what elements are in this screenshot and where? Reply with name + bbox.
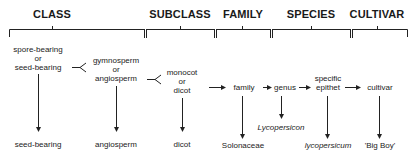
chain-cultivar: cultivar <box>367 83 392 92</box>
mono-choice-line1: monocot <box>167 68 198 77</box>
class-choice-line1: spore-bearing <box>13 45 62 54</box>
fork-icon-2 <box>147 75 161 84</box>
class-choice-line3: seed-bearing <box>13 63 62 72</box>
result-family: Solonaceae <box>222 141 264 150</box>
species-bracket <box>273 26 351 37</box>
header-cultivar: CULTIVAR <box>350 8 405 20</box>
family-bracket <box>217 26 271 37</box>
subclass-bracket <box>147 26 215 37</box>
mono-choice-line2: or <box>167 77 198 86</box>
mono-choice-line3: dicot <box>167 86 198 95</box>
gymno-choice-line1: gymnosperm <box>93 56 139 65</box>
chain-epithet-line2: epithet <box>315 83 342 92</box>
divider-4 <box>351 29 353 38</box>
diagram-lines <box>0 0 416 160</box>
class-choice: spore-bearing or seed-bearing <box>13 45 62 72</box>
divider-3 <box>271 29 273 38</box>
arrowhead-down-species <box>325 134 330 139</box>
monocot-choice: monocot or dicot <box>167 68 198 95</box>
class-choice-line2: or <box>13 54 62 63</box>
chain-epithet-line1: specific <box>315 74 342 83</box>
arrowhead-down-sub1 <box>114 127 119 132</box>
gymno-choice: gymnosperm or angiosperm <box>93 56 139 83</box>
header-species: SPECIES <box>287 8 335 20</box>
arrowhead-down-cultivar <box>377 134 382 139</box>
class-bracket <box>10 26 145 37</box>
header-class: CLASS <box>33 8 71 20</box>
arrowhead-down-class <box>36 127 41 132</box>
classification-diagram: CLASS SUBCLASS FAMILY SPECIES CULTIVAR s… <box>0 0 416 160</box>
result-genus: Lycopersicon <box>258 123 305 132</box>
arrowhead-family <box>221 85 226 90</box>
arrowhead-down-sub2 <box>180 127 185 132</box>
header-subclass: SUBCLASS <box>149 8 210 20</box>
result-species: lycopersicum <box>305 141 352 150</box>
result-seed-bearing: seed-bearing <box>15 140 62 149</box>
arrowhead-down-genus <box>279 114 284 119</box>
gymno-choice-line2: or <box>93 65 139 74</box>
divider-1 <box>145 29 147 38</box>
result-angiosperm: angiosperm <box>95 140 137 149</box>
result-cultivar: 'Big Boy' <box>365 141 396 150</box>
arrowhead-down-family <box>240 134 245 139</box>
gymno-choice-line3: angiosperm <box>93 74 139 83</box>
arrowhead-epithet <box>306 85 311 90</box>
fork-icon-1 <box>72 63 86 72</box>
chain-genus: genus <box>274 83 296 92</box>
chain-family: family <box>234 83 255 92</box>
arrowhead-cultivar <box>356 85 361 90</box>
chain-epithet: specific epithet <box>315 74 342 92</box>
divider-2 <box>215 29 217 38</box>
result-dicot: dicot <box>174 140 191 149</box>
header-family: FAMILY <box>223 8 263 20</box>
cultivar-bracket <box>353 26 408 37</box>
arrowhead-genus <box>267 85 272 90</box>
